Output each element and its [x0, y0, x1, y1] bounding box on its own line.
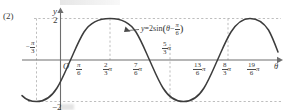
x-tick-7pi-over-6: 76π	[133, 62, 142, 77]
x-tick-5pi-over-3: 53π	[162, 41, 171, 56]
y-axis-arrow	[57, 8, 63, 14]
pi-suffix: π	[168, 44, 172, 52]
numerator: π	[30, 40, 36, 47]
x-tick-pi-over-6: π6	[76, 62, 82, 77]
equation-leader-arrow	[124, 27, 131, 33]
denominator: 6	[247, 69, 256, 77]
numerator: 13	[193, 62, 202, 69]
pi-suffix: π	[202, 65, 206, 73]
denominator: 3	[30, 47, 36, 55]
equation-rhs-prefix: 2sin	[149, 24, 162, 33]
pi-suffix: π	[109, 65, 113, 73]
pi-suffix: π	[256, 65, 260, 73]
x-tick-19pi-over-6: 196π	[247, 62, 260, 77]
x-axis-label: θ	[274, 62, 278, 71]
x-tick-8pi-over-3: 83π	[222, 62, 231, 77]
x-tick-13pi-over-6: 136π	[193, 62, 206, 77]
equation-annotation: y=2sin(θ−π6)	[141, 22, 183, 36]
close-paren: )	[180, 22, 184, 34]
pi-suffix: π	[228, 65, 232, 73]
x-tick-minus-pi-over-3: −π3	[26, 40, 35, 55]
cropped-text-artifact-bottom	[60, 104, 74, 110]
graph-canvas	[0, 0, 283, 110]
pi-suffix: π	[139, 65, 143, 73]
figure-number: (2)	[3, 12, 14, 21]
denominator: 6	[193, 69, 202, 77]
x-tick-2pi-over-3: 23π	[103, 62, 112, 77]
denominator: 6	[76, 69, 82, 77]
equation-leader-line	[128, 30, 139, 31]
numerator: 19	[247, 62, 256, 69]
y-tick-2: 2	[53, 16, 58, 25]
origin-label: O	[63, 62, 69, 71]
numerator: π	[76, 62, 82, 69]
